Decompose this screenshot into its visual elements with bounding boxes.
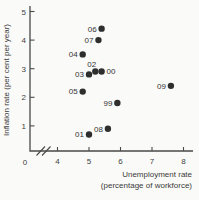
- data-point-02: [92, 68, 98, 74]
- data-point-08: [105, 126, 111, 132]
- point-label-99: 99: [103, 99, 112, 108]
- point-label-04: 04: [69, 50, 78, 59]
- x-axis-label: Unemployment rate: [122, 170, 192, 179]
- y-tick-label: 4: [22, 36, 27, 45]
- origin-label: 0: [23, 158, 28, 167]
- data-point-00: [98, 68, 104, 74]
- point-label-06: 06: [88, 25, 97, 34]
- x-axis-label-line2: (percentage of workforce): [101, 181, 192, 190]
- x-tick-label: 7: [150, 157, 155, 166]
- data-point-99: [114, 100, 120, 106]
- point-label-03: 03: [75, 70, 84, 79]
- data-point-06: [98, 25, 104, 31]
- point-label-09: 09: [157, 82, 166, 91]
- x-tick-label: 8: [181, 157, 186, 166]
- data-point-05: [80, 88, 86, 94]
- x-tick-label: 5: [87, 157, 92, 166]
- data-point-03: [86, 71, 92, 77]
- y-tick-label: 2: [22, 93, 27, 102]
- point-label-01: 01: [75, 130, 84, 139]
- y-tick-label: 1: [22, 122, 27, 131]
- y-tick-label: 3: [22, 65, 27, 74]
- x-tick-label: 4: [55, 157, 60, 166]
- phillips-curve-scatter-chart: 45678123450Unemployment rate(percentage …: [0, 0, 199, 200]
- axes-lines: [30, 6, 193, 151]
- y-tick-label: 5: [22, 8, 27, 17]
- point-label-02: 02: [87, 60, 96, 69]
- point-label-08: 08: [94, 125, 103, 134]
- chart-canvas: 45678123450Unemployment rate(percentage …: [0, 0, 199, 200]
- point-label-00: 00: [107, 67, 116, 76]
- data-point-07: [95, 37, 101, 43]
- x-tick-label: 6: [118, 157, 123, 166]
- point-label-07: 07: [85, 36, 94, 45]
- data-point-01: [86, 131, 92, 137]
- data-point-09: [168, 83, 174, 89]
- y-axis-label: Inflation rate (per cent per year): [2, 24, 11, 136]
- data-point-04: [80, 51, 86, 57]
- point-label-05: 05: [69, 87, 78, 96]
